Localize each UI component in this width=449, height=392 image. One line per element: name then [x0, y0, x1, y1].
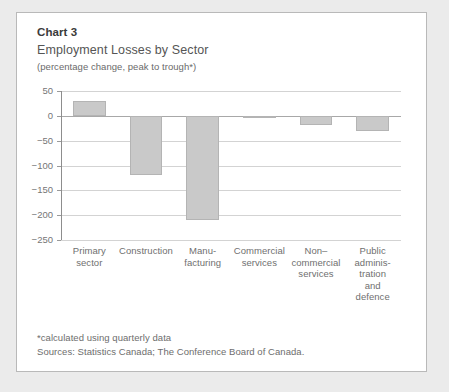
chart-title: Employment Losses by Sector — [37, 42, 407, 59]
gridline — [61, 215, 401, 216]
x-axis-category-label: Primarysector — [61, 245, 118, 268]
x-axis-label-line: services — [288, 268, 345, 280]
y-axis-tick-label: −50 — [13, 136, 53, 146]
x-axis-label-line: Commercial — [231, 245, 288, 257]
chart-panel: Chart 3 Employment Losses by Sector (per… — [16, 12, 427, 372]
x-axis-label-line: Manu- — [174, 245, 231, 257]
chart-footnotes: *calculated using quarterly data Sources… — [37, 331, 412, 359]
x-axis-category-label: Construction — [118, 245, 175, 257]
y-axis-line — [61, 91, 62, 240]
bar — [130, 116, 163, 176]
y-axis-tick-label: 0 — [13, 111, 53, 121]
gridline — [61, 91, 401, 92]
x-axis-category-label: Non–commercialservices — [288, 245, 345, 280]
x-axis-label-line: Primary — [61, 245, 118, 257]
chart-header: Chart 3 Employment Losses by Sector (per… — [37, 25, 407, 73]
bar — [243, 116, 276, 118]
x-axis-label-line: commercial — [288, 257, 345, 269]
x-axis-label-line: facturing — [174, 257, 231, 269]
chart-number: Chart 3 — [37, 25, 407, 39]
gridline — [61, 190, 401, 191]
bar — [73, 101, 106, 116]
x-axis-label-line: Construction — [118, 245, 175, 257]
y-axis-tick-label: −250 — [13, 235, 53, 245]
bar — [356, 116, 389, 131]
footnote-sources: Sources: Statistics Canada; The Conferen… — [37, 345, 412, 359]
x-axis-label-line: adminis- — [344, 257, 401, 269]
x-axis-category-label: Publicadminis-trationanddefence — [344, 245, 401, 303]
x-axis-label-line: sector — [61, 257, 118, 269]
bar — [186, 116, 219, 220]
y-axis-tick-label: 50 — [13, 86, 53, 96]
x-axis-category-label: Commercialservices — [231, 245, 288, 268]
bar — [300, 116, 333, 125]
chart-subtitle: (percentage change, peak to trough*) — [37, 60, 407, 73]
x-axis-label-line: defence — [344, 291, 401, 303]
x-axis-label-line: services — [231, 257, 288, 269]
plot-area: 500−50−100−150−200−250 — [61, 91, 401, 240]
gridline — [61, 166, 401, 167]
footnote-methodology: *calculated using quarterly data — [37, 331, 412, 345]
zero-baseline — [61, 116, 401, 117]
x-axis-label-line: tration — [344, 268, 401, 280]
y-axis-tick-mark — [57, 240, 61, 241]
x-axis-label-line: Public — [344, 245, 401, 257]
y-axis-tick-label: −200 — [13, 210, 53, 220]
y-axis-tick-label: −150 — [13, 185, 53, 195]
gridline — [61, 240, 401, 241]
x-axis-category-label: Manu-facturing — [174, 245, 231, 268]
gridline — [61, 141, 401, 142]
x-axis-label-line: and — [344, 280, 401, 292]
x-axis-label-line: Non– — [288, 245, 345, 257]
y-axis-tick-label: −100 — [13, 161, 53, 171]
x-axis-category-labels: PrimarysectorConstructionManu-facturingC… — [61, 245, 401, 325]
